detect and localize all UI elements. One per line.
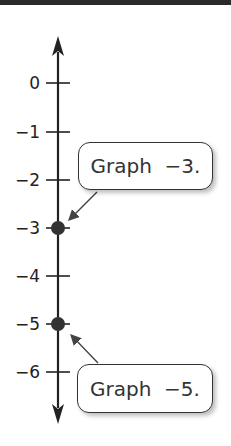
- tick-label-neg6: −6: [0, 362, 40, 382]
- callout-graph-neg3: Graph −3.: [78, 142, 213, 190]
- tick-label-neg5: −5: [0, 314, 40, 334]
- point-neg3: [51, 221, 65, 235]
- tick-label-neg2: −2: [0, 170, 40, 190]
- tick-label-neg3: −3: [0, 218, 40, 238]
- tick-label-neg4: −4: [0, 266, 40, 286]
- point-neg5: [51, 317, 65, 331]
- callout-graph-neg5: Graph −5.: [77, 364, 213, 413]
- tick-label-neg1: −1: [0, 122, 40, 142]
- tick-label-0: 0: [0, 73, 40, 93]
